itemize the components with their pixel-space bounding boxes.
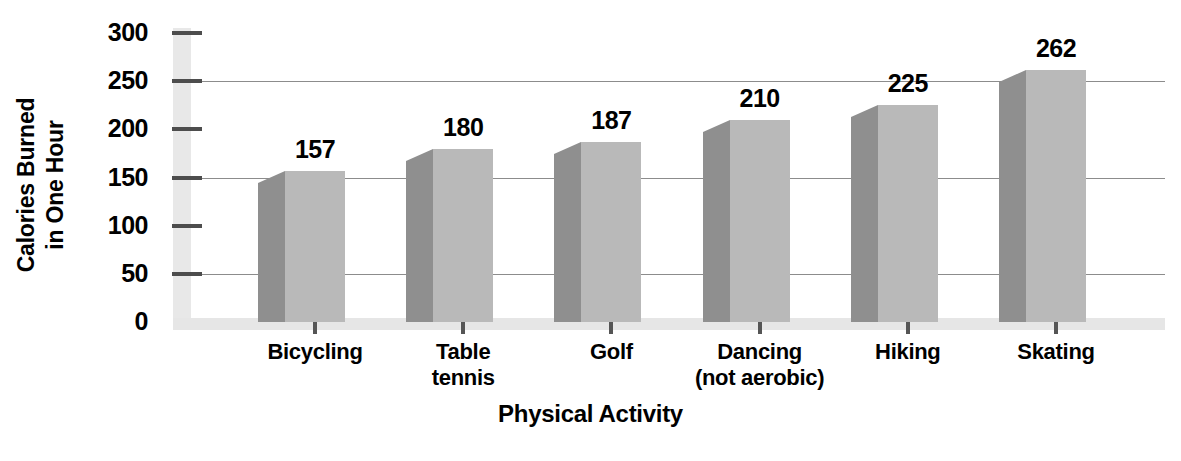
y-tick-label-50: 50 <box>48 261 148 286</box>
bar-side-face <box>554 154 581 322</box>
bar-side-face <box>703 132 730 322</box>
bar-side-face <box>851 117 878 322</box>
value-label-210: 210 <box>700 86 820 111</box>
bar-front-face <box>433 149 493 322</box>
category-label-line-2: (not aerobic) <box>665 365 855 391</box>
y-tick-label-150: 150 <box>48 165 148 190</box>
y-tick-200 <box>172 127 202 131</box>
bar-front-face <box>878 105 938 322</box>
value-label-187: 187 <box>551 108 671 133</box>
bar-front-face <box>285 171 345 322</box>
y-tick-100 <box>172 224 202 228</box>
bar-front-face <box>1026 70 1086 322</box>
category-label-line-1: Bicycling <box>267 339 362 364</box>
y-tick-label-200: 200 <box>48 116 148 141</box>
bar-golf <box>554 0 641 322</box>
x-axis-title: Physical Activity <box>0 400 1181 428</box>
bar-side-face <box>406 161 433 322</box>
bar-side-face <box>258 183 285 322</box>
category-label-line-1: Dancing <box>717 339 802 364</box>
category-label-line-1: Hiking <box>875 339 940 364</box>
value-label-157: 157 <box>255 137 375 162</box>
value-label-180: 180 <box>403 115 523 140</box>
bar-dancing-not-aerobic <box>703 0 790 322</box>
bar-table-tennis <box>406 0 493 322</box>
category-label-line-1: Skating <box>1017 339 1094 364</box>
category-label-line-1: Table <box>436 339 490 364</box>
category-label-5: Skating <box>961 339 1151 365</box>
y-axis-title-line-1: Calories Burned <box>12 98 41 273</box>
category-label-line-1: Golf <box>590 339 633 364</box>
bar-chart: Calories Burned in One Hour 050100150200… <box>0 0 1181 461</box>
y-tick-300 <box>172 31 202 35</box>
y-tick-label-100: 100 <box>48 213 148 238</box>
category-label-line-2: tennis <box>368 365 558 391</box>
y-tick-label-0: 0 <box>48 309 148 334</box>
bar-front-face <box>730 120 790 322</box>
value-label-225: 225 <box>848 71 968 96</box>
value-label-262: 262 <box>996 36 1116 61</box>
y-tick-50 <box>172 272 202 276</box>
y-tick-label-300: 300 <box>48 20 148 45</box>
y-tick-250 <box>172 79 202 83</box>
y-tick-label-250: 250 <box>48 68 148 93</box>
bar-hiking <box>851 0 938 322</box>
y-tick-150 <box>172 176 202 180</box>
bar-front-face <box>581 142 641 322</box>
bar-side-face <box>999 82 1026 322</box>
